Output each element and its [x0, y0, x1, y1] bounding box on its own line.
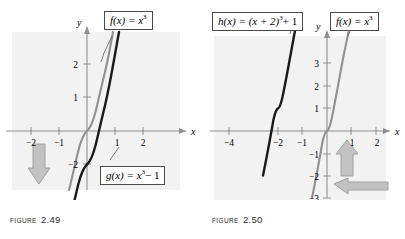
- ytick-label-right-1: 2: [314, 82, 319, 92]
- xtick-label-left-2: 1: [115, 138, 120, 148]
- callout-f-left-exponent: 3: [143, 13, 147, 21]
- ytick-label-left-2: −2: [68, 160, 78, 170]
- figure-2-49: x y −2 −1 1 2 2 1 −2 f(x) = x3 g(x) = x3…: [0, 0, 202, 239]
- ytick-label-right-0: 3: [314, 59, 319, 69]
- ytick-label-right-2: 1: [314, 104, 319, 114]
- xtick-label-left-3: 2: [141, 138, 146, 148]
- ytick-label-left-1: 1: [73, 93, 78, 103]
- xtick-label-right-3: 1: [350, 138, 355, 148]
- xtick-label-right-2: −1: [297, 138, 307, 148]
- callout-g-left: g(x) = x3− 1: [100, 166, 165, 185]
- callout-f-right-exponent: 3: [369, 14, 373, 22]
- figure-2-50: x y −4 −2 −1 1 2 3 2 1 −1 −2 −3 h(x) = (…: [202, 0, 405, 239]
- callout-h-right: h(x) = (x + 2)3+ 1: [212, 12, 303, 31]
- figure-caption-left: FIGURE 2.49: [10, 209, 60, 227]
- callout-g-left-text: g(x) = x: [106, 169, 142, 181]
- ytick-label-right-5: −3: [309, 194, 319, 200]
- callout-g-left-tail: − 1: [145, 169, 159, 181]
- figure-caption-right: FIGURE 2.50: [212, 209, 262, 227]
- xtick-label-right-4: 2: [375, 138, 380, 148]
- figure-pair: x y −2 −1 1 2 2 1 −2 f(x) = x3 g(x) = x3…: [0, 0, 405, 239]
- xtick-label-left-0: −2: [26, 138, 36, 148]
- xtick-label-right-0: −4: [224, 138, 234, 148]
- y-axis-label-left: y: [76, 17, 82, 28]
- y-axis-label-right: y: [315, 21, 321, 32]
- plot-background: [214, 36, 386, 200]
- callout-h-right-text: h(x) = (x + 2): [218, 15, 279, 27]
- callout-h-right-tail: + 1: [283, 15, 297, 27]
- callout-f-right: f(x) = x3: [330, 12, 379, 31]
- callout-f-right-text: f(x) = x: [336, 15, 369, 27]
- figure-caption-right-word: FIGURE: [212, 217, 239, 224]
- xtick-label-left-1: −1: [54, 138, 64, 148]
- ytick-label-left-0: 2: [73, 60, 78, 70]
- figure-caption-left-number: 2.49: [41, 214, 60, 225]
- x-axis-label-right: x: [394, 126, 400, 137]
- ytick-label-right-4: −2: [309, 172, 319, 182]
- callout-f-left-text: f(x) = x: [110, 14, 143, 26]
- x-axis-label-left: x: [190, 126, 196, 137]
- figure-caption-right-number: 2.50: [243, 214, 262, 225]
- figure-caption-left-word: FIGURE: [10, 217, 37, 224]
- ytick-label-right-3: −1: [309, 150, 319, 160]
- callout-f-left: f(x) = x3: [104, 11, 153, 30]
- xtick-label-right-1: −2: [273, 138, 283, 148]
